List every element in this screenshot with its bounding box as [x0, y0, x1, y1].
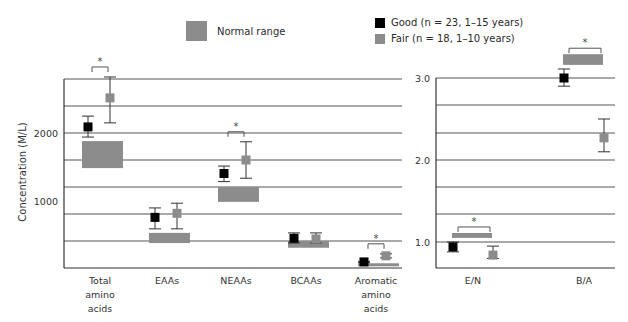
chart-canvas: 10002000Totalaminoacids*EAAsNEAAs*BCAAsA… [0, 0, 628, 322]
significance-asterisk: * [234, 121, 239, 132]
significance-bracket [368, 244, 384, 249]
y-tick-label: 1.0 [415, 237, 430, 248]
normal-range-box [218, 187, 259, 202]
good-marker [84, 122, 93, 131]
y-tick-label: 1000 [34, 196, 58, 207]
normal-range-box [149, 233, 190, 243]
x-category-label: amino [361, 289, 391, 300]
x-category-label: Total [88, 275, 111, 286]
right-panel-ratios: 1.02.03.0E/N*B/A* [415, 37, 615, 286]
x-category-label: Aromatic [355, 275, 398, 286]
fair-marker [106, 93, 115, 102]
x-category-label: NEAAs [220, 275, 251, 286]
x-category-label: acids [88, 303, 113, 314]
normal-range-box [452, 233, 492, 238]
fair-marker [600, 133, 609, 142]
y-tick-label: 2.0 [415, 155, 430, 166]
significance-asterisk: * [472, 216, 477, 227]
significance-asterisk: * [98, 56, 103, 67]
fair-marker [312, 234, 321, 243]
significance-bracket [458, 227, 490, 232]
x-category-label: BCAAs [290, 275, 321, 286]
good-marker [151, 213, 160, 222]
fair-marker [489, 251, 498, 260]
good-marker [560, 74, 569, 83]
x-category-label: EAAs [155, 275, 179, 286]
x-category-label: acids [364, 303, 389, 314]
left-panel-amino-acids: 10002000Totalaminoacids*EAAsNEAAs*BCAAsA… [34, 56, 402, 314]
fair-marker [382, 251, 391, 260]
significance-bracket [92, 67, 108, 72]
normal-range-box [82, 141, 123, 168]
significance-bracket [569, 48, 601, 53]
x-category-label: amino [85, 289, 115, 300]
x-category-label: E/N [465, 275, 481, 286]
significance-asterisk: * [583, 37, 588, 48]
normal-range-box [563, 54, 603, 65]
fair-marker [173, 209, 182, 218]
y-axis-label: Concentration (M/L) [17, 122, 28, 221]
good-marker [290, 234, 299, 243]
y-tick-label: 3.0 [415, 73, 430, 84]
good-marker [360, 257, 369, 266]
good-marker [449, 242, 458, 251]
significance-asterisk: * [374, 233, 379, 244]
good-marker [220, 169, 229, 178]
fair-marker [242, 156, 251, 165]
y-tick-label: 2000 [34, 128, 58, 139]
x-category-label: B/A [576, 275, 593, 286]
